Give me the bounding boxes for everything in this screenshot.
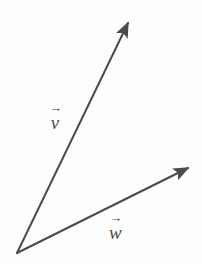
vector-v-label: → v (49, 104, 61, 132)
vector-diagram: → v → w (0, 0, 202, 264)
vector-canvas (0, 0, 202, 264)
vector-w-arrow (17, 168, 188, 253)
vector-w-label: → w (109, 214, 122, 242)
vector-v-arrow-accent: → (49, 104, 61, 112)
vector-w-label-text: w (109, 223, 122, 242)
vector-w-arrow-accent: → (109, 214, 122, 222)
vector-v-label-text: v (49, 113, 61, 132)
